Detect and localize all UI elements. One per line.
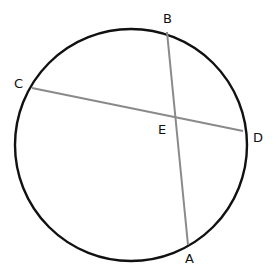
label-e: E xyxy=(158,122,166,137)
label-c: C xyxy=(14,76,23,91)
label-a: A xyxy=(185,251,194,266)
chord-ab xyxy=(167,32,188,245)
label-b: B xyxy=(163,11,172,26)
circle-diagram: B C E D A xyxy=(0,0,278,275)
chord-cd xyxy=(32,88,243,131)
label-d: D xyxy=(253,130,263,145)
circle xyxy=(15,29,247,261)
